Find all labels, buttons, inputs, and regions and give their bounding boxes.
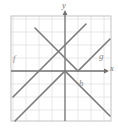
curve-label-f: f — [13, 54, 16, 63]
graph-figure: f g h y x — [0, 0, 118, 128]
curve-label-h: h — [79, 79, 84, 88]
x-axis-label: x — [110, 64, 114, 73]
y-axis-arrow — [63, 10, 68, 15]
curve-label-g: g — [99, 52, 104, 61]
coordinate-plane — [0, 0, 118, 128]
y-axis-label: y — [62, 1, 66, 10]
